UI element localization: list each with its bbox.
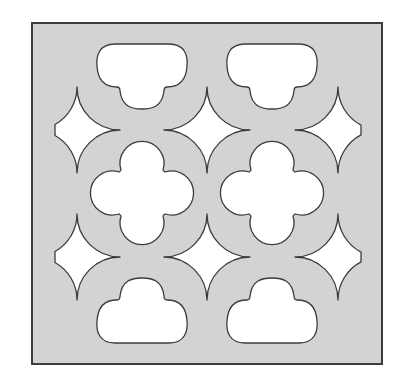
panel-background (32, 23, 382, 364)
lattice-pattern-diagram (0, 0, 409, 388)
